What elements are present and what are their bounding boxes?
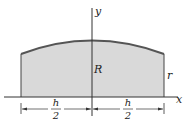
x-axis-label: x (176, 93, 183, 106)
fraction-right: h 2 (123, 97, 133, 121)
center-height-label: R (93, 63, 102, 76)
y-axis-label: y (94, 5, 102, 18)
svg-text:2: 2 (52, 110, 59, 121)
arrow-left-1 (22, 108, 27, 111)
svg-text:h: h (125, 97, 131, 108)
fraction-left: h 2 (51, 97, 61, 121)
arrow-left-2 (86, 108, 91, 111)
arrow-right-1 (93, 108, 98, 111)
edge-height-label: r (167, 69, 173, 82)
arrow-right-2 (158, 108, 163, 111)
svg-text:2: 2 (124, 110, 131, 121)
barrel-diagram: h 2 h 2 y x R r (0, 0, 191, 127)
svg-text:h: h (53, 97, 59, 108)
